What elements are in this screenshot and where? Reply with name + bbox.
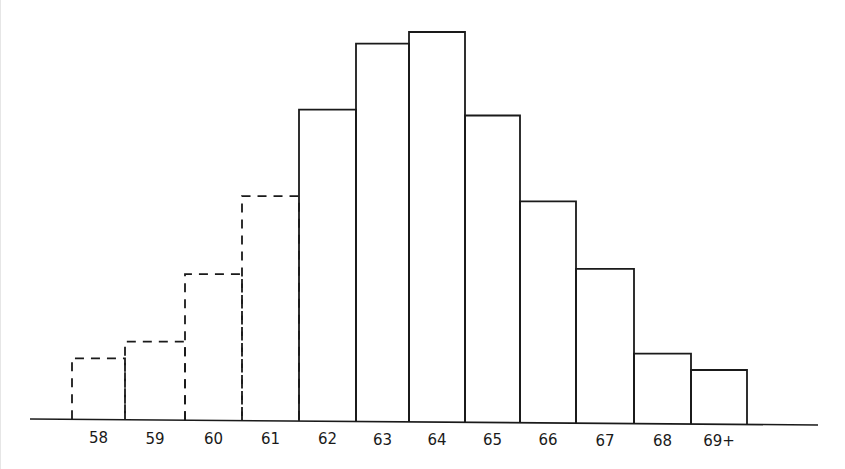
histogram-bar-67 — [576, 269, 634, 424]
histogram-bar-60 — [185, 274, 242, 421]
x-tick-label: 64 — [427, 431, 446, 449]
x-tick-label: 59 — [145, 430, 164, 448]
x-tick-label: 63 — [373, 431, 392, 449]
x-tick-label: 69+ — [703, 432, 735, 450]
x-tick-label: 62 — [318, 430, 337, 448]
histogram-bar-68 — [634, 354, 691, 424]
x-tick-label: 66 — [538, 431, 557, 449]
x-axis-tick-labels: 585960616263646566676869+ — [89, 429, 735, 450]
x-tick-label: 60 — [204, 430, 223, 448]
histogram-bar-64 — [409, 32, 465, 422]
histogram-bars — [72, 32, 747, 424]
histogram-chart: 585960616263646566676869+ — [0, 0, 845, 469]
histogram-bar-65 — [465, 116, 520, 423]
x-axis-baseline — [30, 419, 818, 425]
histogram-bar-66 — [520, 201, 576, 423]
x-tick-label: 67 — [595, 432, 614, 450]
histogram-bar-58 — [72, 358, 125, 419]
histogram-bar-69plus — [691, 370, 747, 424]
histogram-bar-59 — [125, 342, 185, 421]
x-tick-label: 68 — [653, 432, 672, 450]
x-tick-label: 61 — [261, 430, 280, 448]
histogram-bar-61 — [242, 196, 299, 421]
histogram-bar-62 — [299, 110, 356, 422]
x-tick-label: 65 — [483, 431, 502, 449]
x-tick-label: 58 — [89, 429, 108, 447]
histogram-bar-63 — [356, 44, 409, 422]
